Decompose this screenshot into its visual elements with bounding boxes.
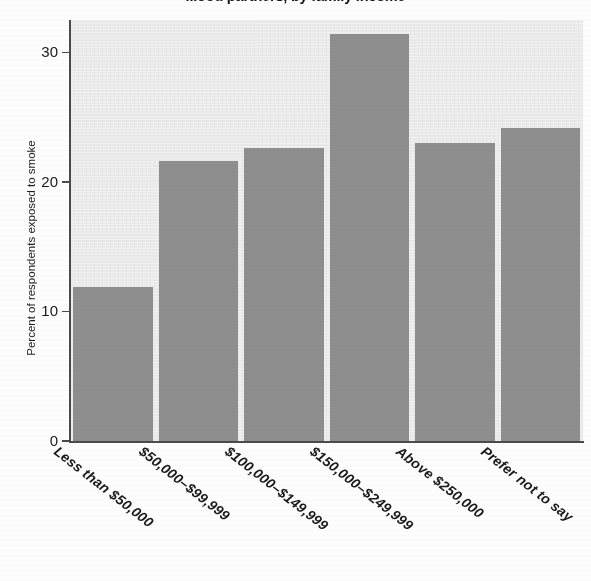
bar-slot xyxy=(241,20,327,441)
x-axis-tick-labels: Less than $50,000$50,000–$99,999$100,000… xyxy=(70,443,583,581)
bar-slot xyxy=(498,20,584,441)
bar[interactable] xyxy=(73,287,153,441)
x-axis-tick-label: $50,000–$99,999 xyxy=(136,443,233,524)
y-axis-line xyxy=(69,20,71,442)
y-axis-tick-label: 20 xyxy=(0,174,58,189)
bar[interactable] xyxy=(415,143,495,441)
bar-series xyxy=(70,20,583,441)
y-axis-tick xyxy=(62,311,70,312)
y-axis-title: Percent of respondents exposed to smoke xyxy=(25,48,37,448)
bar-slot xyxy=(327,20,413,441)
x-axis-tick-label: Prefer not to say xyxy=(478,443,576,525)
x-axis-tick-label: Above $250,000 xyxy=(393,443,487,521)
bar-slot xyxy=(70,20,156,441)
y-axis-tick-label: 0 xyxy=(0,433,58,448)
y-axis-tick-label: 10 xyxy=(0,303,58,318)
y-axis-tick xyxy=(62,181,70,182)
plot-area xyxy=(70,20,583,441)
y-axis-tick xyxy=(62,440,70,441)
bar[interactable] xyxy=(159,161,239,441)
bar-slot xyxy=(156,20,242,441)
chart-figure: ...ood partners, by family income Percen… xyxy=(0,0,591,581)
bar[interactable] xyxy=(244,148,324,441)
bar-slot xyxy=(412,20,498,441)
bar[interactable] xyxy=(330,34,410,441)
y-axis-tick-label: 30 xyxy=(0,44,58,59)
bar[interactable] xyxy=(501,128,581,441)
chart-title: ...ood partners, by family income xyxy=(0,0,591,6)
y-axis-tick xyxy=(62,52,70,53)
